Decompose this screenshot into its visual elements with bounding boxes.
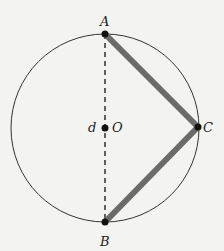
chord-ac	[105, 34, 198, 127]
label-o: O	[112, 120, 123, 135]
chord-cb	[105, 127, 198, 222]
point-c	[195, 124, 202, 131]
geometry-figure: A B C O d	[0, 0, 224, 251]
point-o	[102, 125, 109, 132]
label-d: d	[88, 120, 96, 135]
label-a: A	[99, 14, 109, 29]
point-b	[102, 219, 109, 226]
label-b: B	[99, 234, 110, 249]
diagram: A B C O d	[0, 0, 224, 251]
label-c: C	[203, 120, 213, 135]
point-a	[102, 31, 109, 38]
